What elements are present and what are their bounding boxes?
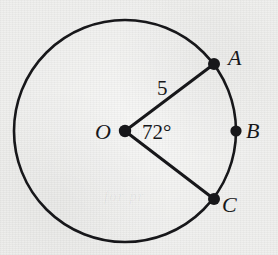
geometry-diagram-screenshot: for pr O A B C 5 72° (0, 0, 278, 255)
point-dot-C (208, 193, 220, 205)
point-label-B: B (246, 120, 259, 142)
point-label-O: O (95, 121, 111, 143)
point-dot-B (230, 125, 241, 136)
point-dot-A (208, 58, 220, 70)
angle-measure-label: 72° (142, 122, 171, 143)
radius-measure-label: 5 (157, 78, 168, 99)
point-dot-O (119, 125, 131, 137)
point-label-A: A (228, 47, 241, 69)
point-label-C: C (222, 194, 237, 216)
